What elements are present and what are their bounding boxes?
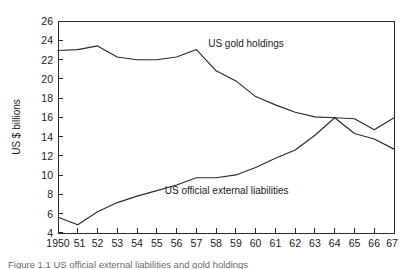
y-tick-label: 14 xyxy=(41,131,53,143)
x-axis-ticks xyxy=(58,228,394,233)
x-tick-label: 55 xyxy=(151,237,163,249)
x-tick-label: 56 xyxy=(171,237,183,249)
x-tick-label: 58 xyxy=(210,237,222,249)
y-axis-tick-labels: 26 24 22 20 18 16 14 12 10 8 6 4 xyxy=(41,15,53,239)
y-tick-label: 20 xyxy=(41,73,53,85)
series-annotation-liabilities: US official external liabilities xyxy=(165,185,289,196)
y-tick-label: 26 xyxy=(41,15,53,27)
y-axis-title: US $ billions xyxy=(11,99,22,155)
x-tick-label: 63 xyxy=(309,237,321,249)
data-series-group xyxy=(58,46,394,225)
y-axis-ticks xyxy=(58,21,63,233)
x-tick-label: 61 xyxy=(270,237,282,249)
y-tick-label: 10 xyxy=(41,169,53,181)
figure-caption: Figure 1.1 US official external liabilit… xyxy=(8,259,248,269)
y-tick-label: 6 xyxy=(47,208,53,220)
x-tick-label: 57 xyxy=(191,237,203,249)
x-tick-label: 65 xyxy=(349,237,361,249)
x-tick-label: 52 xyxy=(92,237,104,249)
figure-container: 26 24 22 20 18 16 14 12 10 8 6 4 US $ bi… xyxy=(0,0,417,269)
x-tick-label: 53 xyxy=(111,237,123,249)
y-tick-label: 22 xyxy=(41,54,53,66)
x-tick-label: 60 xyxy=(250,237,262,249)
y-tick-label: 18 xyxy=(41,92,53,104)
x-tick-label: 54 xyxy=(131,237,143,249)
plot-frame xyxy=(58,21,394,233)
series-line-us-official-external-liabilities xyxy=(58,118,394,225)
x-tick-label: 67 xyxy=(386,237,398,249)
series-annotation-gold: US gold holdings xyxy=(208,38,284,49)
y-tick-label: 16 xyxy=(41,111,53,123)
x-tick-label: 59 xyxy=(230,237,242,249)
x-tick-label: 51 xyxy=(74,237,86,249)
y-tick-label: 24 xyxy=(41,34,53,46)
x-tick-label: 64 xyxy=(329,237,341,249)
x-axis-tick-labels: 1950 51 52 53 54 55 56 57 58 59 60 61 62… xyxy=(46,237,398,249)
chart-canvas: 26 24 22 20 18 16 14 12 10 8 6 4 US $ bi… xyxy=(0,0,417,269)
y-tick-label: 8 xyxy=(47,188,53,200)
x-tick-label: 62 xyxy=(289,237,301,249)
axis-frame-path xyxy=(58,21,394,233)
series-line-us-gold-holdings xyxy=(58,46,394,149)
x-tick-label: 66 xyxy=(368,237,380,249)
x-tick-label: 1950 xyxy=(46,237,70,249)
y-tick-label: 12 xyxy=(41,150,53,162)
